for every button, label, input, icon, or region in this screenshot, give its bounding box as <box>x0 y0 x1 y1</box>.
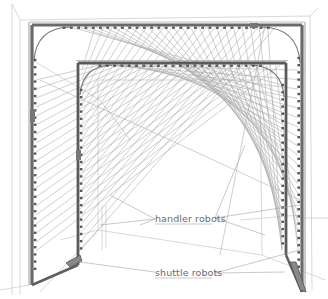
room-outline <box>0 4 328 295</box>
handler-robots-label: handler robots <box>155 213 226 224</box>
diagram-canvas: handler robots shuttle robots <box>0 0 328 299</box>
shuttle-robots-label: shuttle robots <box>155 267 222 278</box>
label-leader-lines <box>80 145 300 278</box>
rail-system-diagram: handler robots shuttle robots <box>0 0 328 299</box>
